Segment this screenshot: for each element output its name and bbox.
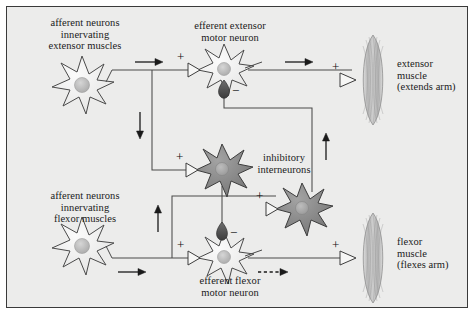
- wire-extensor-afferent-branch-down: [152, 70, 196, 170]
- afferent-extensor-neuron: [52, 56, 114, 114]
- excitatory-terminal-extensor-motor: [188, 63, 200, 77]
- label-afferent-flexor-neurons: afferent neurons innervating flexor musc…: [20, 190, 150, 225]
- flexor-afferent-flow-arrow: [118, 269, 146, 276]
- extensor-branch-down-arrow: [137, 112, 144, 139]
- excitatory-terminal-flexor-motor: [188, 251, 200, 265]
- sign-flexor-motor-inhibitory: −: [230, 226, 237, 239]
- inhibitory-interneuron-lower: [276, 183, 333, 236]
- nucleus: [296, 202, 309, 215]
- sign-lower-interneuron-excitatory: +: [256, 189, 263, 202]
- excitatory-terminal-lower-interneuron: [266, 202, 278, 216]
- extensor-motor-output-arrow: [285, 59, 313, 66]
- neural-circuit-figure: + − + + + − + + afferent neurons innerva…: [0, 0, 476, 316]
- sign-upper-interneuron-excitatory: +: [176, 150, 183, 163]
- afferent-flexor-neuron: [52, 217, 114, 275]
- flexor-branch-up-arrow: [155, 205, 162, 232]
- inhibitory-terminal-flexor-motor: [217, 222, 228, 240]
- sign-flexor-muscle-junction: +: [332, 238, 339, 251]
- sign-extensor-motor-inhibitory: −: [232, 84, 239, 97]
- sign-extensor-muscle-junction: +: [332, 60, 339, 73]
- label-flexor-muscle: flexor muscle (flexes arm): [397, 236, 475, 271]
- extensor-afferent-flow-arrow: [135, 59, 163, 66]
- label-extensor-muscle: extensor muscle (extends arm): [397, 58, 475, 93]
- label-efferent-extensor-motor-neuron: efferent extensor motor neuron: [168, 20, 292, 43]
- extensor-muscle-shape: [363, 35, 383, 125]
- nucleus: [218, 63, 231, 76]
- label-inhibitory-interneurons: inhibitory interneurons: [238, 152, 330, 175]
- label-efferent-flexor-motor-neuron: efferent flexor motor neuron: [168, 275, 292, 298]
- nucleus: [218, 251, 231, 264]
- excitatory-terminal-flexor-muscle: [340, 251, 356, 265]
- nucleus: [75, 239, 90, 254]
- flexor-muscle-shape: [363, 213, 383, 303]
- nucleus: [216, 163, 229, 176]
- nucleus: [75, 78, 90, 93]
- sign-extensor-motor-excitatory: +: [177, 50, 184, 63]
- excitatory-terminal-extensor-muscle: [340, 73, 356, 87]
- label-afferent-extensor-neurons: afferent neurons innervating extensor mu…: [20, 17, 150, 52]
- excitatory-terminal-upper-interneuron: [186, 163, 198, 177]
- sign-flexor-motor-excitatory: +: [177, 238, 184, 251]
